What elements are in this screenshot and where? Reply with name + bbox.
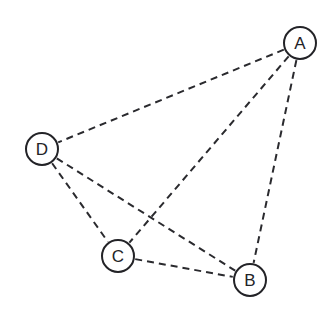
graph-node-c[interactable]: C <box>102 240 134 272</box>
node-label-b: B <box>244 271 255 290</box>
graph-node-d[interactable]: D <box>26 133 58 165</box>
graph-edge-c-b <box>135 259 233 277</box>
node-label-a: A <box>294 34 306 53</box>
diagram-canvas: ABCD <box>0 0 334 316</box>
graph-node-a[interactable]: A <box>284 27 316 59</box>
graph-svg: ABCD <box>0 0 334 316</box>
node-layer: ABCD <box>26 27 316 296</box>
edge-layer <box>52 50 296 277</box>
graph-edge-a-b <box>254 60 297 263</box>
graph-edge-a-d <box>58 50 284 143</box>
node-label-d: D <box>36 140 48 159</box>
graph-node-b[interactable]: B <box>234 264 266 296</box>
graph-edge-d-b <box>57 158 235 270</box>
graph-edge-d-c <box>52 163 108 241</box>
node-label-c: C <box>112 247 124 266</box>
